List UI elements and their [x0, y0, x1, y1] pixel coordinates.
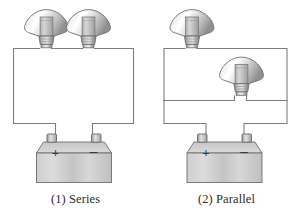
series-battery-minus-label: –: [89, 143, 98, 159]
caption-parallel: (2) Parallel: [151, 192, 302, 207]
parallel-battery-minus-label: –: [239, 143, 248, 159]
parallel-wiring: [164, 49, 287, 135]
parallel-bulb-2: [220, 57, 264, 95]
parallel-battery-plus-label: +: [202, 145, 209, 160]
parallel-bulb-1: [170, 10, 214, 48]
series-wiring: [14, 49, 134, 135]
series-bulb-2: [67, 10, 111, 48]
series-bulb-1: [25, 10, 69, 48]
circuit-diagram: + – +: [0, 0, 302, 214]
series-battery: [37, 134, 112, 183]
panel-series: + –: [14, 10, 134, 183]
parallel-battery: [187, 134, 262, 183]
figure-canvas: + – +: [0, 0, 302, 214]
caption-series: (1) Series: [0, 192, 151, 207]
series-battery-plus-label: +: [52, 145, 59, 160]
panel-parallel: + –: [164, 10, 287, 183]
